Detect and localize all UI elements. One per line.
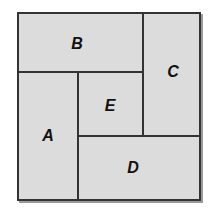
region-label-a: A [42,127,54,145]
region-label-b: B [71,35,83,53]
divider-vertical-right [142,13,144,137]
divider-horizontal-bottom [78,135,200,137]
region-label-c: C [167,63,179,81]
region-label-e: E [105,97,116,115]
divider-horizontal-top [18,71,143,73]
region-label-d: D [127,159,139,177]
